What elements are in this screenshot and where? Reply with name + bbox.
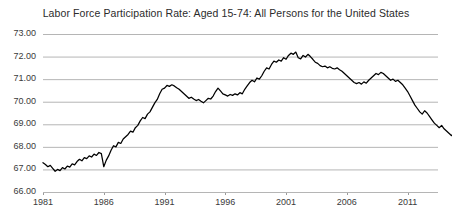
y-axis-tick-label: 70.00 [0, 96, 36, 106]
x-axis-tick-label: 2011 [388, 197, 428, 207]
y-axis-tick-label: 66.00 [0, 186, 36, 196]
y-axis-tick-label: 69.00 [0, 118, 36, 128]
x-axis-tick-label: 1996 [205, 197, 245, 207]
y-axis-tick-label: 71.00 [0, 73, 36, 83]
x-axis-tick-label: 2001 [266, 197, 306, 207]
x-axis-tick-label: 1986 [84, 197, 124, 207]
y-axis-tick-label: 68.00 [0, 141, 36, 151]
x-axis-tick-label: 1981 [23, 197, 63, 207]
x-axis-tick-label: 2006 [327, 197, 367, 207]
data-series-line [43, 52, 452, 171]
y-axis-tick-label: 72.00 [0, 51, 36, 61]
plot-area [43, 34, 438, 192]
x-axis-tick-label: 1991 [145, 197, 185, 207]
y-axis-tick-label: 67.00 [0, 163, 36, 173]
gridlines [43, 35, 438, 193]
y-axis-tick-label: 73.00 [0, 28, 36, 38]
chart-title: Labor Force Participation Rate: Aged 15-… [0, 7, 452, 19]
chart-svg [43, 34, 438, 192]
chart-container: Labor Force Participation Rate: Aged 15-… [0, 0, 452, 221]
